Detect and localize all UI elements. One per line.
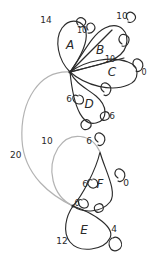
weight-label-14: 14: [40, 16, 51, 25]
self-loop-f-top: [95, 133, 105, 146]
self-loop-d-upper-right: [101, 83, 111, 96]
diagram-canvas: A B C D E F 14 10 10 10 0 6 6 20 10 6 6 …: [0, 0, 156, 270]
node-label-f: F: [97, 178, 104, 190]
self-loop-b-right: [119, 34, 129, 46]
node-label-c: C: [108, 66, 116, 78]
vertex-dots: [68, 70, 74, 207]
weight-label-0-f-right: 0: [123, 179, 129, 188]
node-label-a: A: [66, 39, 74, 51]
weight-label-20: 20: [10, 151, 21, 160]
node-label-d: D: [84, 98, 93, 110]
weight-label-0-c: 0: [141, 69, 146, 77]
weight-label-10-bc: 10: [105, 56, 115, 64]
self-loop-ab: [87, 23, 95, 33]
hub-edge-b: [70, 30, 112, 72]
weight-label-12: 12: [56, 237, 67, 246]
node-label-b: B: [96, 44, 104, 56]
weight-label-6-d-right: 6: [109, 112, 115, 121]
weight-label-10-lower: 10: [41, 137, 52, 146]
edge-10: [52, 136, 100, 206]
weight-label-10-ab: 10: [77, 27, 87, 35]
node-label-e: E: [80, 224, 88, 236]
diagram-sketch: [0, 0, 156, 270]
weight-label-10-top-right: 10: [116, 12, 127, 21]
weight-label-6-e-top: 6: [74, 200, 79, 208]
self-loop-e-top: [78, 199, 88, 208]
vertex-hub-upper: [68, 70, 71, 73]
weight-label-4-e-right: 4: [111, 225, 117, 234]
weight-label-6-d-left: 6: [66, 95, 72, 104]
self-loop-e-right: [109, 237, 121, 251]
weight-label-6-f-left: 6: [82, 180, 88, 189]
weight-label-6-top-f: 6: [86, 137, 92, 146]
